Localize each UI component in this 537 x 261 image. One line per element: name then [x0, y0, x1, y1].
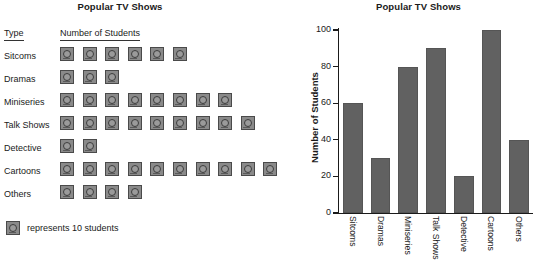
tv-icon: [83, 70, 97, 84]
x-axis-tick-label: Talk Shows: [431, 216, 440, 259]
tv-icon: [128, 162, 142, 176]
x-axis-tick-label: Cartoons: [486, 216, 495, 251]
tv-icon: [83, 139, 97, 153]
tv-icon: [150, 93, 164, 107]
tv-icon: [196, 116, 210, 130]
pictograph-row: Detective: [4, 139, 298, 162]
y-axis-tick-label: 100: [303, 25, 331, 34]
pictograph-legend-label: represents 10 students: [27, 223, 119, 234]
tv-icon: [263, 162, 277, 176]
pictograph-row-label: Miniseries: [4, 97, 45, 108]
bar: [454, 176, 474, 213]
pictograph-row: Others: [4, 185, 298, 208]
tv-icon: [6, 221, 20, 235]
y-axis-tick-label: 40: [303, 135, 331, 144]
y-axis-tick: [333, 212, 338, 213]
bar-chart-panel: Popular TV Shows Number of Students 0204…: [300, 0, 537, 261]
pictograph-title: Popular TV Shows: [0, 1, 240, 12]
pictograph-row-label: Cartoons: [4, 166, 41, 177]
y-axis-tick: [333, 66, 338, 67]
pictograph-row-icons: [60, 70, 119, 84]
tv-icon: [83, 47, 97, 61]
pictograph-row-label: Dramas: [4, 74, 36, 85]
tv-icon: [105, 185, 119, 199]
tv-icon: [128, 116, 142, 130]
tv-icon: [60, 47, 74, 61]
pictograph-row: Sitcoms: [4, 47, 298, 70]
tv-icon: [218, 162, 232, 176]
x-axis-tick-label: Miniseries: [403, 216, 412, 255]
tv-icon: [150, 116, 164, 130]
pictograph-row-label: Detective: [4, 143, 42, 154]
tv-icon: [150, 162, 164, 176]
tv-icon: [105, 93, 119, 107]
pictograph-header-row: Type Number of Students: [4, 28, 294, 42]
bar: [482, 30, 502, 213]
tv-icon: [60, 70, 74, 84]
tv-icon: [105, 47, 119, 61]
y-axis-tick-label: 80: [303, 62, 331, 71]
pictograph-rows: SitcomsDramasMiniseriesTalk ShowsDetecti…: [4, 47, 298, 208]
plot-area: [339, 30, 533, 213]
bar: [509, 140, 529, 213]
tv-icon: [173, 93, 187, 107]
bar-chart-title: Popular TV Shows: [300, 1, 537, 12]
pictograph-row: Talk Shows: [4, 116, 298, 139]
tv-icon: [128, 185, 142, 199]
pictograph-panel: Popular TV Shows Type Number of Students…: [0, 0, 300, 261]
pictograph-row-icons: [60, 162, 277, 176]
y-axis-tick: [333, 103, 338, 104]
tv-icon: [60, 139, 74, 153]
pictograph-row-icons: [60, 185, 142, 199]
bar: [343, 103, 363, 213]
pictograph-row-icons: [60, 139, 97, 153]
y-axis-tick-label: 20: [303, 171, 331, 180]
bar: [426, 48, 446, 213]
pictograph-legend: represents 10 students: [6, 221, 119, 235]
y-axis-tick-label: 0: [303, 208, 331, 217]
y-axis-tick-label: 60: [303, 98, 331, 107]
tv-icon: [173, 116, 187, 130]
tv-icon: [218, 116, 232, 130]
tv-icon: [241, 116, 255, 130]
column-header-type: Type: [4, 28, 24, 41]
bar: [371, 158, 391, 213]
pictograph-row-icons: [60, 116, 255, 130]
tv-icon: [241, 162, 255, 176]
x-axis-tick-label: Others: [514, 216, 523, 242]
tv-icon: [218, 93, 232, 107]
tv-icon: [60, 93, 74, 107]
tv-icon: [173, 47, 187, 61]
tv-icon: [105, 116, 119, 130]
tv-icon: [150, 47, 164, 61]
tv-icon: [60, 185, 74, 199]
tv-icon: [196, 162, 210, 176]
bar: [398, 67, 418, 213]
pictograph-row: Miniseries: [4, 93, 298, 116]
tv-icon: [128, 47, 142, 61]
pictograph-row-icons: [60, 93, 232, 107]
tv-icon: [83, 185, 97, 199]
x-axis-tick-label: Sitcoms: [348, 216, 357, 247]
pictograph-row-label: Sitcoms: [4, 51, 36, 62]
tv-icon: [105, 162, 119, 176]
pictograph-row: Cartoons: [4, 162, 298, 185]
tv-icon: [83, 116, 97, 130]
pictograph-row-label: Talk Shows: [4, 120, 50, 131]
tv-icon: [173, 162, 187, 176]
pictograph-row: Dramas: [4, 70, 298, 93]
tv-icon: [83, 162, 97, 176]
y-axis-tick: [333, 139, 338, 140]
tv-icon: [105, 70, 119, 84]
y-axis-tick: [333, 176, 338, 177]
tv-icon: [83, 93, 97, 107]
column-header-number-of-students: Number of Students: [60, 28, 140, 41]
tv-icon: [60, 162, 74, 176]
x-axis-tick-label: Detective: [459, 216, 468, 252]
pictograph-row-icons: [60, 47, 187, 61]
tv-icon: [60, 116, 74, 130]
pictograph-row-label: Others: [4, 189, 31, 200]
x-axis-tick-label: Dramas: [376, 216, 385, 246]
y-axis-tick: [333, 29, 338, 30]
tv-icon: [196, 93, 210, 107]
